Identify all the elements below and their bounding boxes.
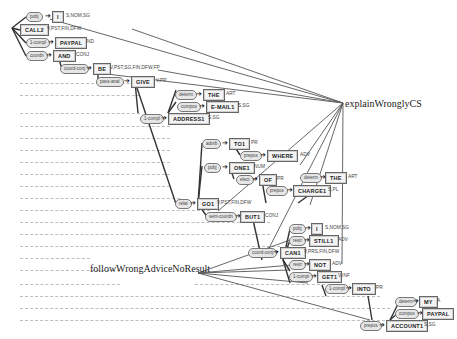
grammar-tag: ART [226,89,236,99]
grammar-tag: ART [348,172,358,182]
relation-label: coordn [26,51,48,61]
word-node[interactable]: ADDRESS1 [168,113,210,125]
word-node[interactable]: AND [53,50,76,62]
word-node[interactable]: BUT1 [240,211,265,223]
word-node[interactable]: NOT [309,259,331,271]
word-node[interactable]: INTO [352,283,376,295]
grammar-tag: CONJ [265,211,278,221]
grammar-tag: S,SG [424,320,435,330]
grammar-tag: S,NOM,SG [66,11,90,21]
word-node[interactable]: BE [93,63,111,75]
word-node[interactable]: THE [325,172,347,184]
word-node[interactable]: CAN1 [280,247,306,259]
word-node[interactable]: PAYPAL [422,308,454,320]
word-node[interactable]: I [52,11,64,23]
grammar-tag: V,PRS,FIN,DFW [304,247,339,257]
relation-label: pobj [204,163,221,173]
word-node[interactable]: GO1 [197,198,219,210]
arrow-icon: ➔ [124,77,130,85]
grammar-tag: PR [251,138,258,148]
arrow-icon: ➔ [190,199,196,207]
word-node[interactable]: TO1 [229,138,250,150]
grammar-tag: PR [376,283,383,293]
grammar-tag: ADV [338,235,348,245]
word-node-root[interactable]: CALL2 [20,24,49,36]
relation-label: pass-anal [96,77,124,87]
relation-label: pobj [26,12,43,22]
relation-label: elect [236,175,254,185]
dependency-tree-canvas: explainWronglyCS followWrongAdviceNoResu… [0,0,457,339]
arrow-icon: ➔ [161,114,167,122]
arrow-icon: ➔ [196,90,202,98]
grammar-tag: ADV [300,150,310,160]
word-node[interactable]: MY [419,296,438,308]
relation-label: coord-conj [60,64,89,74]
word-node[interactable]: PAYPAL [55,37,87,49]
relation-label: pobj [289,224,306,234]
grammar-tag: NUM [254,162,265,172]
grammar-tag: S,SG [238,101,249,111]
annotation-explain-wrongly-cs: explainWronglyCS [345,98,422,109]
grammar-tag: V,PST,SG,FIN,DFW,FP [110,63,160,73]
grammar-tag: S,NOM,SG [325,223,349,233]
relation-label: prepos [266,186,288,196]
arrow-icon: ➔ [260,151,266,159]
arrow-icon: ➔ [379,321,385,329]
grammar-tag: ADV [332,259,342,269]
grammar-tag: V,INF [338,271,350,281]
arrow-icon: ➔ [222,139,228,147]
arrow-icon: ➔ [222,163,228,171]
word-node[interactable]: OF [259,174,277,186]
relation-label: compos [177,102,201,112]
word-node[interactable]: THE [203,89,225,101]
arrow-icon: ➔ [252,175,258,183]
word-node[interactable]: CHARGE1 [293,185,331,197]
relation-label: 1-compl [289,272,313,282]
word-node[interactable]: I [311,223,323,235]
grammar-tag: PR [277,174,284,184]
word-node[interactable]: E-MAIL1 [206,101,239,113]
annotation-follow-wrong-advice-no-result: followWrongAdviceNoResult [90,263,210,274]
grammar-tag: V,PST,FIN,DFW [47,24,81,34]
word-node[interactable]: STILL1 [309,235,339,247]
grammar-tag: V,PP [156,76,167,86]
word-node[interactable]: GIVE [131,76,155,88]
word-node[interactable]: ONE1 [229,162,255,174]
arrow-icon: ➔ [48,38,54,46]
relation-label: sent-coordn [205,212,237,222]
arrow-icon: ➔ [45,12,51,20]
grammar-tag: V,PST,FIN,DFW [217,198,251,208]
arrow-icon: ➔ [273,248,279,256]
relation-label: determ [300,173,322,183]
relation-label: advrb [202,139,221,149]
relation-label: determ [175,90,197,100]
arrow-icon: ➔ [46,51,52,59]
relation-label: compos [395,309,419,319]
word-node[interactable]: WHERE [267,150,298,162]
word-node[interactable]: ACCOUNT1 [386,320,428,332]
relation-label: prepos [240,151,262,161]
grammar-tag: S,PL [328,185,338,195]
grammar-tag: CONJ [76,50,89,60]
grammar-tag: A [437,296,440,306]
relation-label: 1-compl [26,38,50,48]
arrow-icon: ➔ [199,102,205,110]
grammar-tag: S,SG [208,113,219,123]
grammar-tag: ND [87,37,94,47]
arrow-icon: ➔ [86,64,92,72]
